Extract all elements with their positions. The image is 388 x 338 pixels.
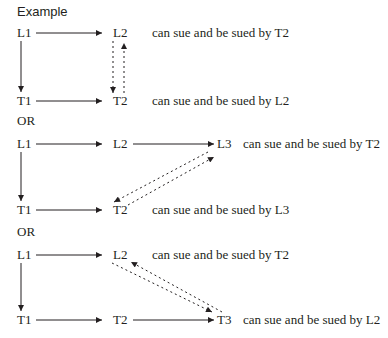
node-l1: L1 — [17, 26, 31, 40]
node-t3: T3 — [217, 313, 231, 327]
dotted-arrow-l3-t2 — [114, 152, 208, 202]
statement-l3: can sue and be sued by T2 — [243, 137, 380, 151]
node-l1: L1 — [17, 137, 31, 151]
statement-t2: can sue and be sued by L2 — [152, 94, 289, 108]
node-l1: L1 — [17, 248, 31, 262]
statement-l2: can sue and be sued by T2 — [152, 248, 289, 262]
node-l2: L2 — [113, 248, 127, 262]
or-separator: OR — [17, 114, 35, 128]
dotted-arrow-t2-l3 — [128, 157, 214, 205]
statement-t2: can sue and be sued by L3 — [152, 203, 289, 217]
node-t2: T2 — [113, 94, 127, 108]
node-t2: T2 — [113, 313, 127, 327]
or-separator: OR — [17, 225, 35, 239]
node-l2: L2 — [113, 26, 127, 40]
node-l3: L3 — [217, 137, 231, 151]
node-t1: T1 — [17, 94, 31, 108]
node-t2: T2 — [113, 203, 127, 217]
node-t1: T1 — [17, 313, 31, 327]
statement-l2: can sue and be sued by T2 — [152, 26, 289, 40]
dotted-arrow-t3-l2 — [131, 262, 222, 312]
dotted-arrow-l2-t3 — [112, 263, 212, 312]
diagram-arrows — [0, 0, 388, 338]
diagram-title: Example — [17, 5, 68, 19]
node-l2: L2 — [113, 137, 127, 151]
node-t1: T1 — [17, 203, 31, 217]
statement-t3: can sue and be sued by L2 — [243, 313, 380, 327]
